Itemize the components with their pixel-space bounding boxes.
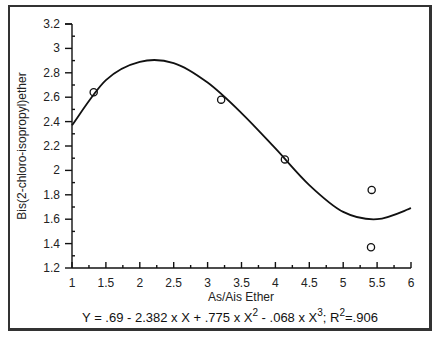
equation-r-value: =.906 — [345, 310, 378, 325]
x-tick-label: 2 — [136, 276, 143, 290]
equation-term-1: Y = .69 - 2.382 x X + .775 x X — [82, 310, 252, 325]
data-points — [90, 89, 375, 251]
chart-plot: 11.522.533.544.555.561.21.41.61.822.22.4… — [0, 0, 442, 343]
x-tick-label: 1 — [69, 276, 76, 290]
x-tick-label: 4.5 — [301, 276, 318, 290]
y-tick-label: 1.8 — [43, 188, 60, 202]
y-tick-label: 2.4 — [43, 115, 60, 129]
y-tick-label: 2.8 — [43, 66, 60, 80]
y-tick-label: 1.6 — [43, 212, 60, 226]
x-tick-label: 6 — [408, 276, 415, 290]
x-tick-label: 1.5 — [98, 276, 115, 290]
data-point-marker — [367, 244, 374, 251]
y-tick-label: 3 — [53, 41, 60, 55]
y-tick-label: 1.2 — [43, 261, 60, 275]
x-tick-label: 3.5 — [233, 276, 250, 290]
x-tick-label: 2.5 — [165, 276, 182, 290]
x-tick-label: 3 — [204, 276, 211, 290]
data-point-marker — [368, 186, 375, 193]
axes: 11.522.533.544.555.561.21.41.61.822.22.4… — [43, 17, 414, 290]
fit-curve — [72, 60, 411, 219]
y-tick-label: 2.6 — [43, 90, 60, 104]
x-tick-label: 4 — [272, 276, 279, 290]
x-tick-label: 5.5 — [369, 276, 386, 290]
regression-equation: Y = .69 - 2.382 x X + .775 x X2 - .068 x… — [0, 310, 442, 325]
equation-term-2: - .068 x X — [258, 310, 317, 325]
y-tick-label: 2.2 — [43, 139, 60, 153]
y-tick-label: 1.4 — [43, 237, 60, 251]
y-tick-label: 3.2 — [43, 17, 60, 31]
y-axis-title: Bis(2-chloro-isopropyl)ether — [15, 72, 29, 219]
x-axis-title: As/Ais Ether — [208, 290, 274, 304]
data-point-marker — [218, 96, 225, 103]
equation-r-label: ; R — [323, 310, 340, 325]
y-tick-label: 2 — [53, 163, 60, 177]
x-tick-label: 5 — [340, 276, 347, 290]
